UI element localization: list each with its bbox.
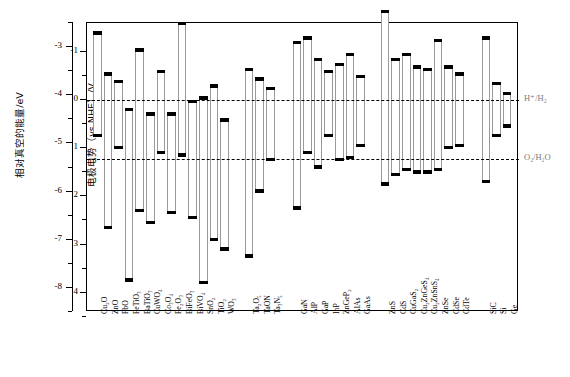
category-label: AlAs (353, 298, 362, 314)
category-label: BiFeO₃ (185, 290, 194, 314)
axis-minor-tick (68, 311, 72, 312)
valence-band-edge-marker (167, 211, 176, 214)
conduction-band-edge-marker (293, 41, 302, 44)
valence-band-edge-marker (482, 180, 491, 183)
band-gap-bar (135, 49, 144, 210)
band-gap-bar (455, 74, 464, 146)
conduction-band-edge-marker (402, 53, 411, 56)
axis-minor-tick (68, 70, 72, 71)
conduction-band-edge-marker (114, 80, 123, 83)
conduction-band-edge-marker (93, 31, 102, 34)
conduction-band-edge-marker (210, 84, 219, 87)
axis-tick-label: 0 (50, 93, 78, 103)
conduction-band-edge-marker (434, 39, 443, 42)
category-label: GaAs (363, 296, 372, 314)
conduction-band-edge-marker (356, 75, 365, 78)
category-label: Cu₂ZnGeS₄ (420, 277, 429, 314)
valence-band-edge-marker (245, 254, 254, 257)
reference-line (87, 100, 519, 101)
valence-band-edge-marker (381, 182, 390, 185)
band-gap-bar (114, 81, 123, 148)
valence-band-edge-marker (199, 281, 208, 284)
valence-band-edge-marker (324, 134, 333, 137)
band-gap-bar (314, 59, 323, 167)
axis-tick-label: -1 (50, 45, 78, 55)
band-gap-bar (324, 71, 333, 136)
category-label: Co₃O₄ (164, 294, 173, 314)
band-gap-bar (492, 83, 501, 136)
conduction-band-edge-marker (391, 58, 400, 61)
valence-band-edge-marker (157, 151, 166, 154)
reference-line-label: O₂/H₂O (524, 152, 551, 162)
valence-band-edge-marker (178, 153, 187, 156)
category-label: BaTiO₃ (143, 290, 152, 314)
category-label: AlP (310, 302, 319, 314)
band-gap-bar (245, 69, 254, 257)
band-gap-bar (413, 66, 422, 172)
vacuum-energy-axis-line (72, 22, 73, 311)
band-gap-bar (104, 74, 113, 228)
band-gap-bar (303, 37, 312, 153)
valence-band-edge-marker (125, 278, 134, 281)
axis-minor-tick (82, 316, 86, 317)
axis-tick-label: 3 (50, 238, 78, 248)
band-gap-bar (220, 119, 229, 249)
conduction-band-edge-marker (146, 112, 155, 115)
axis-tick-label: 4 (50, 286, 78, 296)
conduction-band-edge-marker (245, 68, 254, 71)
valence-band-edge-marker (314, 165, 323, 168)
band-gap-bar (346, 54, 355, 158)
valence-band-edge-marker (104, 226, 113, 229)
category-label: Cu₂ZnSnS₄ (430, 278, 439, 314)
category-label: ZnS (388, 301, 397, 314)
conduction-band-edge-marker (413, 65, 422, 68)
category-label: PbO (121, 300, 130, 314)
band-edge-diagram: 相对真空的能量/eV -3-4-5-6-7-8 电极电势（vs NHE）/V -… (0, 0, 570, 377)
valence-band-edge-marker (503, 124, 512, 127)
band-gap-bar (503, 93, 512, 127)
valence-band-edge-marker (135, 209, 144, 212)
category-label: SiC (489, 302, 498, 314)
band-gap-bar (255, 78, 264, 191)
conduction-band-edge-marker (346, 53, 355, 56)
band-gap-bar (93, 33, 102, 137)
conduction-band-edge-marker (503, 92, 512, 95)
valence-band-edge-marker (146, 221, 155, 224)
category-label: Ge (510, 305, 519, 314)
conduction-band-edge-marker (266, 87, 275, 90)
band-gap-bar (167, 114, 176, 214)
category-label: BiVO₄ (196, 293, 205, 314)
category-label: CuWO₄ (153, 289, 162, 314)
conduction-band-edge-marker (255, 77, 264, 80)
axis-minor-tick (68, 22, 72, 23)
conduction-band-edge-marker (482, 36, 491, 39)
conduction-band-edge-marker (220, 118, 229, 121)
valence-band-edge-marker (188, 216, 197, 219)
band-gap-bar (423, 69, 432, 173)
band-gap-bar (402, 54, 411, 170)
valence-band-edge-marker (220, 247, 229, 250)
valence-band-edge-marker (356, 144, 365, 147)
category-label: GaN (300, 299, 309, 314)
valence-band-edge-marker (293, 206, 302, 209)
conduction-band-edge-marker (381, 10, 390, 13)
conduction-band-edge-marker (104, 72, 113, 75)
band-gap-bar (356, 76, 365, 146)
reference-line (87, 159, 519, 160)
conduction-band-edge-marker (324, 70, 333, 73)
conduction-band-edge-marker (178, 22, 187, 25)
band-gap-bar (178, 23, 187, 155)
conduction-band-edge-marker (303, 36, 312, 39)
category-label: TiO₂ (217, 299, 226, 314)
category-label: CdSe (452, 297, 461, 314)
conduction-band-edge-marker (423, 68, 432, 71)
conduction-band-edge-marker (157, 70, 166, 73)
axis-tick-label: 1 (50, 141, 78, 151)
conduction-band-edge-marker (167, 112, 176, 115)
axis-minor-tick (68, 118, 72, 119)
category-label: ZnGeP₂ (342, 289, 351, 314)
conduction-band-edge-marker (444, 65, 453, 68)
category-label: ZnO (111, 300, 120, 314)
axis-minor-tick (68, 215, 72, 216)
category-label: CdS (399, 301, 408, 314)
